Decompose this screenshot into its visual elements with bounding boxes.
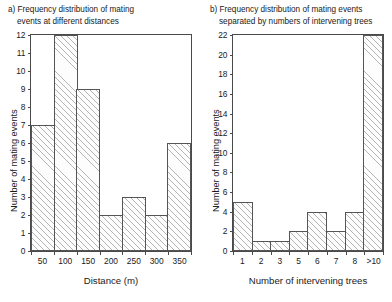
y-tick-label-a-7: 7	[21, 121, 26, 129]
x-tick-b-3	[289, 251, 290, 255]
y-tick-b-8	[230, 172, 234, 173]
bar-a-300	[145, 215, 169, 251]
y-tick-label-a-10: 10	[16, 67, 25, 75]
y-tick-label-a-5: 5	[21, 157, 26, 165]
bar-b-6	[307, 212, 327, 251]
panel-a-distance-histogram: a) Frequency distribution of mating even…	[0, 0, 196, 302]
y-tick-label-a-0: 0	[21, 247, 26, 255]
panel-b-title: b) Frequency distribution of mating even…	[210, 4, 372, 27]
bar-a-100	[54, 35, 78, 251]
x-tick-b-1	[252, 251, 253, 255]
bar-b-7	[326, 231, 346, 251]
y-tick-a-4	[28, 179, 32, 180]
x-tick-b-0	[233, 251, 234, 255]
panel-a-x-axis-title: Distance (m)	[84, 275, 138, 286]
x-tick-a-3	[100, 251, 101, 255]
x-tick-label-b-2: 2	[259, 257, 264, 265]
x-tick-a-7	[191, 251, 192, 255]
x-tick-label-a-300: 300	[150, 257, 164, 265]
panel-a-y-axis-title: Number of mating events	[9, 109, 19, 212]
y-tick-a-1	[28, 233, 32, 234]
x-tick-a-5	[145, 251, 146, 255]
x-tick-b-7	[364, 251, 365, 255]
x-tick-label-a-350: 350	[173, 257, 187, 265]
panel-b-title-line1: b) Frequency distribution of mating even…	[210, 5, 362, 14]
x-tick-a-6	[168, 251, 169, 255]
x-tick-a-2	[77, 251, 78, 255]
y-tick-label-a-12: 12	[16, 31, 25, 39]
x-tick-label-b-6: 6	[315, 257, 320, 265]
panel-b-bars	[233, 35, 383, 251]
y-tick-b-18	[230, 74, 234, 75]
y-tick-b-16	[230, 94, 234, 95]
y-tick-a-3	[28, 197, 32, 198]
bar-b-1	[233, 202, 253, 251]
y-tick-label-b-12: 12	[218, 129, 227, 137]
y-tick-label-a-3: 3	[21, 193, 26, 201]
y-tick-b-20	[230, 55, 234, 56]
y-tick-b-4	[230, 212, 234, 213]
x-tick-b-8	[383, 251, 384, 255]
y-tick-label-a-8: 8	[21, 103, 26, 111]
panel-b-y-axis-title: Number of mating events	[211, 109, 221, 212]
y-tick-label-b-2: 2	[223, 227, 228, 235]
bar-a-150	[76, 89, 100, 251]
y-tick-b-12	[230, 133, 234, 134]
x-tick-label-b-8: 8	[353, 257, 358, 265]
x-tick-b-2	[271, 251, 272, 255]
y-tick-b-22	[230, 35, 234, 36]
x-tick-a-4	[122, 251, 123, 255]
bar-b-2	[252, 241, 272, 251]
y-tick-label-a-11: 11	[17, 49, 26, 57]
x-tick-label-b->10: >10	[367, 257, 381, 265]
x-tick-a-1	[54, 251, 55, 255]
panel-a-title-line1: a) Frequency distribution of mating	[8, 5, 134, 14]
y-tick-label-b-10: 10	[218, 149, 227, 157]
panel-b-plot-area: 02468101214161820221235678>10	[232, 34, 384, 252]
bar-a-350	[167, 143, 191, 251]
x-tick-b-4	[308, 251, 309, 255]
y-tick-a-12	[28, 35, 32, 36]
y-tick-label-a-6: 6	[21, 139, 26, 147]
y-tick-label-a-9: 9	[21, 85, 26, 93]
y-tick-b-14	[230, 114, 234, 115]
x-tick-label-b-1: 1	[240, 257, 245, 265]
y-tick-b-2	[230, 231, 234, 232]
bar-b-3	[270, 241, 290, 251]
x-tick-b-5	[327, 251, 328, 255]
y-tick-label-b-22: 22	[218, 31, 227, 39]
figure-container: a) Frequency distribution of mating even…	[0, 0, 392, 302]
y-tick-a-7	[28, 125, 32, 126]
y-tick-label-b-6: 6	[223, 188, 228, 196]
x-tick-label-b-3: 3	[278, 257, 283, 265]
y-tick-label-a-1: 1	[21, 229, 26, 237]
y-tick-label-b-14: 14	[218, 109, 227, 117]
panel-a-plot-area: 012345678910111250100150200250300350	[30, 34, 192, 252]
y-tick-label-b-18: 18	[218, 70, 227, 78]
y-tick-a-11	[28, 53, 32, 54]
bar-a-50	[31, 125, 55, 251]
x-tick-label-a-150: 150	[81, 257, 95, 265]
x-tick-a-0	[31, 251, 32, 255]
y-tick-label-b-20: 20	[218, 50, 227, 58]
panel-a-title: a) Frequency distribution of mating even…	[8, 4, 134, 27]
x-tick-label-a-250: 250	[127, 257, 141, 265]
y-tick-label-b-16: 16	[218, 90, 227, 98]
y-tick-b-10	[230, 153, 234, 154]
y-tick-b-6	[230, 192, 234, 193]
x-tick-label-a-200: 200	[104, 257, 118, 265]
y-tick-a-10	[28, 71, 32, 72]
y-tick-label-b-4: 4	[223, 208, 228, 216]
y-tick-a-9	[28, 89, 32, 90]
bar-b-5	[289, 231, 309, 251]
x-tick-label-a-100: 100	[58, 257, 72, 265]
x-tick-label-a-50: 50	[38, 257, 47, 265]
y-tick-a-2	[28, 215, 32, 216]
panel-b-trees-histogram: b) Frequency distribution of mating even…	[196, 0, 392, 302]
y-tick-label-a-4: 4	[21, 175, 26, 183]
panel-b-title-line2: separated by numbers of intervening tree…	[210, 16, 372, 28]
x-tick-label-b-5: 5	[296, 257, 301, 265]
y-tick-a-6	[28, 143, 32, 144]
y-tick-label-b-8: 8	[223, 168, 228, 176]
bar-b-8	[345, 212, 365, 251]
